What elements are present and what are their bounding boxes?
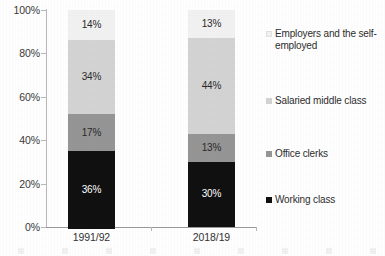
y-axis-tick-label-text: 40% (0, 135, 40, 145)
x-axis-tick (151, 227, 152, 231)
legend-swatch-icon (266, 98, 272, 104)
legend-swatch-icon (266, 151, 272, 157)
legend-item[interactable]: Working class (266, 194, 384, 206)
bar-segment[interactable]: 13% (188, 10, 235, 38)
bar-segment-label: 30% (202, 189, 222, 199)
y-axis-tick-label-text: 100% (0, 5, 40, 15)
bar-segment[interactable]: 13% (188, 134, 235, 162)
legend-item-label: Office clerks (275, 148, 328, 160)
y-axis-tick (41, 227, 46, 228)
bar-segment[interactable]: 14% (68, 10, 115, 40)
bar-segment[interactable]: 36% (68, 151, 115, 229)
stacked-bar-chart: 0%20%40%60%80%100% 14%34%17%36%13%44%13%… (0, 0, 385, 256)
y-axis-tick-label-text: 0% (0, 222, 40, 232)
y-axis-tick (41, 97, 46, 98)
bar-segment[interactable]: 34% (68, 40, 115, 114)
y-axis-tick (41, 140, 46, 141)
bar-segment-label: 44% (202, 81, 222, 91)
bar-segment[interactable]: 17% (68, 114, 115, 151)
chart-legend: Employers and the self-employedSalaried … (266, 10, 384, 227)
bar-segment-label: 13% (202, 19, 222, 29)
bar-segment-label: 36% (82, 185, 102, 195)
y-axis-tick-label: 100% (0, 5, 40, 15)
y-axis-tick (41, 10, 46, 11)
bar-segment-label: 17% (82, 128, 102, 138)
y-axis-tick-label-text: 60% (0, 92, 40, 102)
bar-segment-label: 34% (82, 72, 102, 82)
legend-item[interactable]: Salaried middle class (266, 95, 384, 107)
y-axis-tick-label: 0% (0, 222, 40, 232)
legend-swatch-icon (266, 197, 272, 203)
y-axis-tick (41, 184, 46, 185)
y-axis-tick-label: 40% (0, 135, 40, 145)
legend-item-label: Employers and the self-employed (275, 28, 384, 51)
bar-segment[interactable]: 30% (188, 162, 235, 227)
y-axis-line (46, 9, 47, 228)
x-axis-tick (256, 227, 257, 231)
y-axis-tick-label: 60% (0, 92, 40, 102)
bar-segment-label: 13% (202, 143, 222, 153)
y-axis-tick-label: 20% (0, 179, 40, 189)
legend-item[interactable]: Office clerks (266, 148, 384, 160)
bar-segment[interactable]: 44% (188, 38, 235, 133)
x-axis-category-label: 2018/19 (167, 231, 257, 243)
legend-item[interactable]: Employers and the self-employed (266, 28, 384, 51)
stacked-bar[interactable]: 14%34%17%36% (68, 10, 115, 227)
stacked-bar[interactable]: 13%44%13%30% (188, 10, 235, 227)
legend-item-label: Working class (275, 194, 335, 206)
bar-segment-label: 14% (82, 20, 102, 30)
y-axis-tick-label: 80% (0, 48, 40, 58)
legend-item-label: Salaried middle class (275, 95, 366, 107)
y-axis-tick-label-text: 20% (0, 179, 40, 189)
y-axis-tick (41, 53, 46, 54)
x-axis-category-label: 1991/92 (47, 231, 137, 243)
scan-edge-artifact (0, 248, 385, 254)
legend-swatch-icon (266, 31, 272, 37)
y-axis-tick-label-text: 80% (0, 48, 40, 58)
